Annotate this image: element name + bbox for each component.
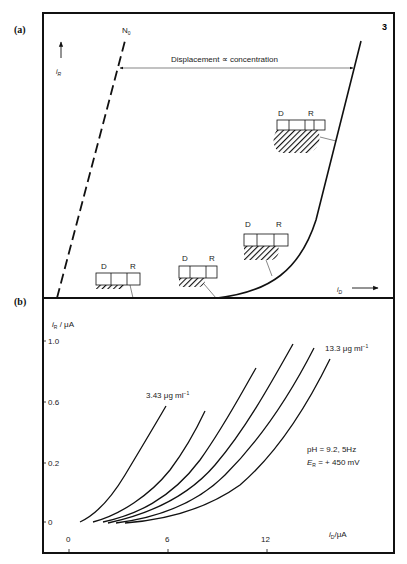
conditions-potential: ER = + 450 mV xyxy=(307,458,360,468)
d-label: D xyxy=(101,262,107,271)
curve-4 xyxy=(108,344,293,523)
panel-a: iR N0 Displacement ∝ concentration iD D … xyxy=(56,26,378,298)
y-tick-label: 0.2 xyxy=(48,459,60,468)
x-ticks: 0 6 12 xyxy=(66,535,270,553)
d-label: D xyxy=(245,220,251,229)
y-axis-label: iR xyxy=(56,68,62,77)
high-concentration-label: 13.3 μg ml−1 xyxy=(325,343,368,353)
y-tick-label: 1.0 xyxy=(48,337,60,346)
n0-dashed-line xyxy=(57,37,126,298)
r-label: R xyxy=(209,254,215,263)
figure-number: 3 xyxy=(382,22,387,32)
d-label: D xyxy=(182,254,188,263)
electrode-inset: D R xyxy=(274,109,336,153)
y-ticks: 1.0 0.6 0.2 0 xyxy=(43,337,60,527)
panel-b: iR / μA 1.0 0.6 0.2 0 0 6 12 iD/μA xyxy=(43,320,368,553)
r-label: R xyxy=(276,220,282,229)
x-axis-title: iD/μA xyxy=(329,530,347,540)
x-tick-label: 12 xyxy=(261,535,270,544)
curve-13-3 xyxy=(125,359,330,523)
concentration-curves xyxy=(80,344,330,523)
x-axis-label: iD xyxy=(337,286,343,295)
x-tick-label: 6 xyxy=(165,535,170,544)
r-label: R xyxy=(130,262,136,271)
electrode-inset: D R xyxy=(96,262,140,298)
y-tick-label: 0 xyxy=(48,518,53,527)
electrode-inset: D R xyxy=(244,220,288,276)
displacement-annotation: Displacement ∝ concentration xyxy=(171,55,278,64)
d-label: D xyxy=(278,109,284,118)
panel-a-label: (a) xyxy=(14,24,26,36)
y-axis-title: iR / μA xyxy=(52,320,75,330)
y-tick-label: 0.6 xyxy=(48,398,60,407)
panel-b-label: (b) xyxy=(14,296,26,308)
threshold-curve xyxy=(217,41,361,298)
conditions-ph: pH = 9.2, 5Hz xyxy=(307,445,356,454)
curve-3-43 xyxy=(80,406,166,522)
electrode-inset: D R xyxy=(179,254,217,298)
n0-label: N0 xyxy=(122,26,131,36)
low-concentration-label: 3.43 μg ml−1 xyxy=(146,390,189,400)
figure-canvas: (a) (b) 3 iR N0 Displacement ∝ concentra… xyxy=(0,0,407,564)
x-tick-label: 0 xyxy=(66,535,71,544)
r-label: R xyxy=(308,109,314,118)
